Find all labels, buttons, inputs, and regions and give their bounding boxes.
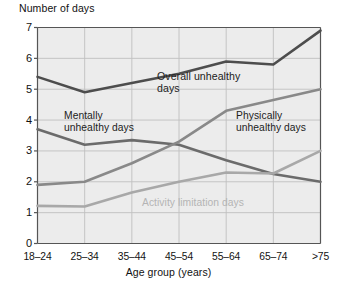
y-tick-label: 2	[16, 176, 32, 187]
y-tick-label: 4	[16, 115, 32, 126]
y-tick-label: 3	[16, 145, 32, 156]
plot-area	[0, 0, 337, 283]
x-tick-label: 18–24	[12, 251, 64, 262]
x-tick-label: 45–54	[153, 251, 205, 262]
x-tick-label: >75	[295, 251, 337, 262]
y-tick-label: 6	[16, 53, 32, 64]
x-tick-label: 55–64	[200, 251, 252, 262]
series-label-physically-unhealthy-days: Physically unhealthy days	[236, 110, 306, 133]
line-chart: Number of days 01234567 18–2425–3435–444…	[0, 0, 337, 283]
y-tick-label: 5	[16, 84, 32, 95]
x-tick-label: 25–34	[59, 251, 111, 262]
x-axis-title: Age group (years)	[0, 266, 337, 278]
y-tick-label: 0	[16, 238, 32, 249]
series-label-activity-limitation-days: Activity limitation days	[142, 197, 244, 209]
x-tick-label: 65–74	[247, 251, 299, 262]
y-tick-label: 1	[16, 207, 32, 218]
series-label-overall-unhealthy-days: Overall unhealthy days	[157, 71, 240, 94]
x-tick-label: 35–44	[106, 251, 158, 262]
series-label-mentally-unhealthy-days: Mentally unhealthy days	[64, 110, 134, 133]
y-tick-label: 7	[16, 22, 32, 33]
